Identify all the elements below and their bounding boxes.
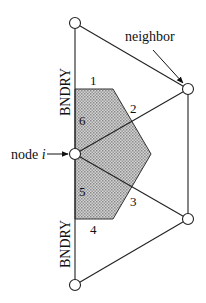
- boundary-label-bottom: BNDRY: [58, 220, 73, 268]
- boundary-label-top: BNDRY: [58, 68, 73, 116]
- mesh-diagram: neighbor node i BNDRY BNDRY 1 2 3 4 5 6: [0, 0, 206, 303]
- control-volume: [75, 89, 151, 219]
- face-number-6: 6: [79, 113, 86, 128]
- node-i: [70, 149, 81, 160]
- face-number-3: 3: [130, 194, 137, 209]
- node-bottom-right: [183, 214, 194, 225]
- node-neighbor: [183, 84, 194, 95]
- node-top: [70, 18, 81, 29]
- node-bottom: [70, 280, 81, 291]
- neighbor-label: neighbor: [125, 29, 175, 44]
- neighbor-arrow: [153, 50, 183, 83]
- node-i-label: node i: [11, 147, 46, 162]
- face-number-5: 5: [79, 184, 86, 199]
- face-number-2: 2: [130, 101, 137, 116]
- face-number-1: 1: [90, 73, 97, 88]
- face-number-4: 4: [90, 222, 97, 237]
